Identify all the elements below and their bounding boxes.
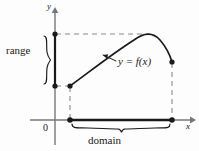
range-label: range <box>6 45 30 56</box>
function-domain-range-figure: range domain y = f(x) y x 0 <box>0 0 199 151</box>
dashed-guides <box>56 34 172 119</box>
figure-canvas <box>0 0 199 151</box>
domain-left-dot <box>67 117 73 123</box>
curve-right-endpoint-dot <box>169 59 174 64</box>
range-brace <box>44 36 51 84</box>
x-axis-arrow-icon <box>190 117 196 124</box>
range-upper-dot <box>52 31 57 36</box>
domain-brace <box>72 124 170 133</box>
y-axis-label: y <box>47 2 51 11</box>
origin-label: 0 <box>43 123 48 133</box>
y-axis-arrow-icon <box>52 7 59 13</box>
point-markers <box>52 31 174 122</box>
range-lower-dot <box>52 83 57 88</box>
domain-label: domain <box>88 135 121 146</box>
x-axis-label: x <box>186 122 190 131</box>
function-equation-label: y = f(x) <box>118 56 151 67</box>
domain-right-dot <box>169 117 175 123</box>
curve-left-endpoint-dot <box>67 83 72 88</box>
